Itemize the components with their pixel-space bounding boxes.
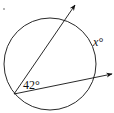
arc-label: x° [92,35,103,49]
dot-mark [3,8,5,10]
angle-label: 42° [23,78,40,92]
circle [4,18,96,110]
inscribed-angle-diagram: 42° x° [0,0,114,113]
